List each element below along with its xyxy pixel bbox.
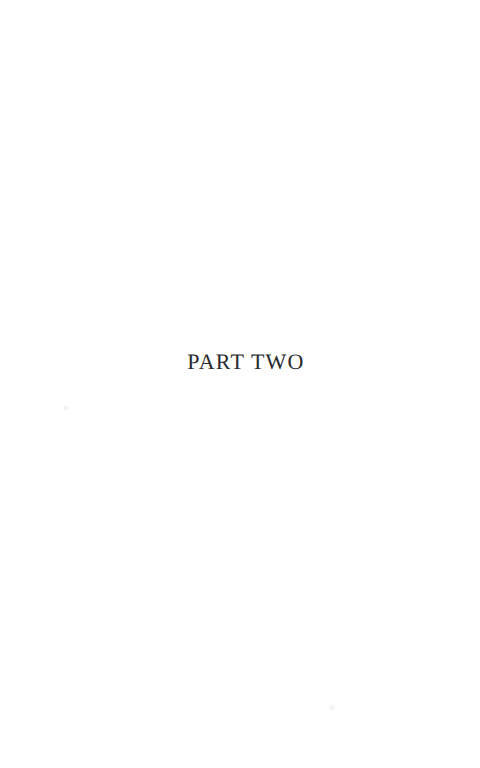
page-bottom-blank-area [0, 379, 480, 768]
book-page: PART TWO [0, 0, 480, 768]
page-top-blank-area [0, 0, 480, 345]
part-title-block: PART TWO [0, 345, 480, 379]
part-title: PART TWO [187, 350, 304, 374]
